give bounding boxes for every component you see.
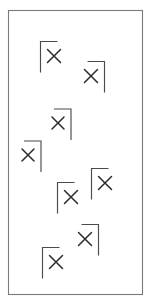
marker-field-svg [0, 0, 150, 303]
diagram-canvas [0, 0, 150, 303]
outer-frame-border [9, 11, 143, 295]
